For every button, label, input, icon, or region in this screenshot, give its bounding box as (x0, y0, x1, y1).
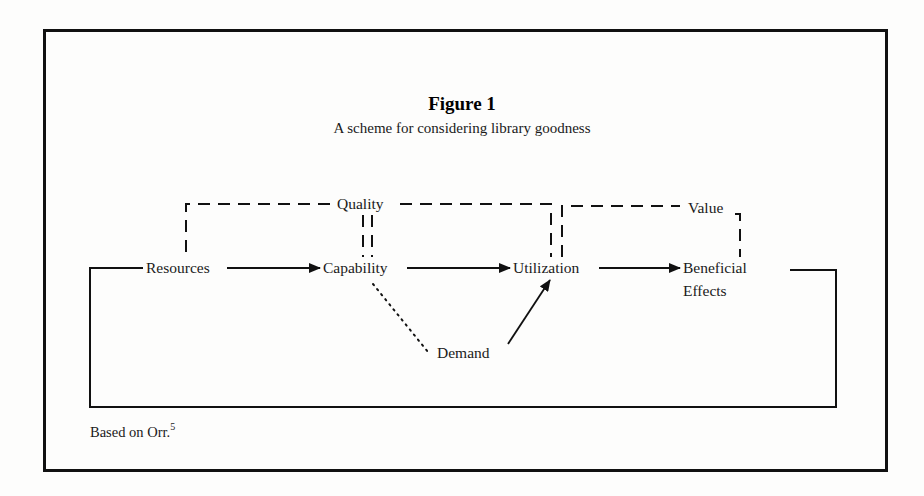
source-note: Based on Orr.5 (90, 421, 175, 440)
value-bracket-left (562, 206, 680, 257)
library-goodness-diagram: Figure 1 A scheme for considering librar… (0, 0, 924, 496)
label-value: Value (688, 199, 723, 216)
quality-bracket-left (186, 204, 333, 252)
figure-title: Figure 1 (428, 93, 496, 114)
node-capability: Capability (323, 259, 388, 276)
value-bracket-right (735, 214, 740, 257)
node-beneficial-effects-line1: Beneficial (683, 259, 747, 276)
node-beneficial-effects-line2: Effects (683, 282, 727, 299)
label-quality: Quality (337, 195, 384, 212)
document-page: Figure 1 A scheme for considering librar… (0, 0, 924, 496)
dashed-brackets (186, 204, 740, 257)
node-resources: Resources (146, 259, 210, 276)
node-demand: Demand (437, 344, 490, 361)
figure-subtitle: A scheme for considering library goodnes… (333, 120, 590, 136)
dotted-capability-demand (373, 284, 428, 352)
node-utilization: Utilization (513, 259, 580, 276)
arrow-demand-utilization (508, 280, 550, 344)
quality-bracket-right (400, 204, 551, 257)
flow-arrows (227, 268, 680, 344)
